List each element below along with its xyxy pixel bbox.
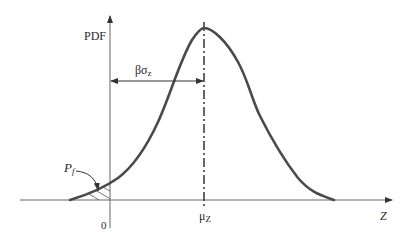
failure-probability-label: Pf bbox=[63, 160, 76, 176]
pdf-diagram: PDF Z 0 μZ βσz Pf bbox=[0, 0, 408, 244]
y-axis-label: PDF bbox=[84, 29, 106, 43]
x-axis-label: Z bbox=[380, 209, 387, 223]
mean-label: μZ bbox=[199, 209, 211, 224]
failure-probability-leader bbox=[76, 171, 98, 190]
reliability-distance-label: βσz bbox=[135, 63, 152, 78]
origin-label: 0 bbox=[101, 219, 107, 231]
